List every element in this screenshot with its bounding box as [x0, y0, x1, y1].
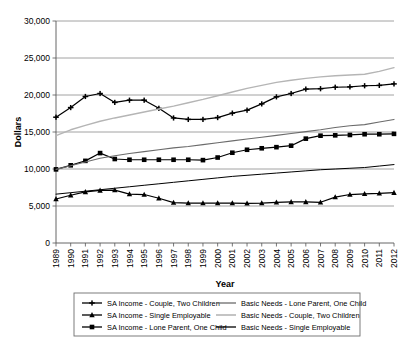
x-tick-label: 2001 — [227, 249, 237, 268]
marker-plus — [200, 117, 206, 122]
y-tick-label: 25,000 — [24, 53, 50, 63]
marker-square — [274, 145, 279, 150]
chart-container: 05,00010,00015,00020,00025,00030,000 198… — [0, 0, 402, 345]
x-tick-label: 2005 — [286, 249, 296, 268]
marker-square — [186, 157, 191, 162]
marker-plus-bar-v — [114, 100, 116, 105]
legend-label: Basic Needs - Lone Parent, One Child — [241, 299, 366, 308]
marker-plus-bar-v — [217, 115, 219, 120]
series-line — [56, 68, 394, 136]
marker-plus — [303, 86, 309, 91]
marker-plus — [185, 117, 191, 122]
series-line — [56, 84, 394, 120]
marker-square — [362, 132, 367, 137]
marker-square — [127, 157, 132, 162]
marker-plus-bar-v — [349, 84, 351, 89]
marker-plus-bar-v — [85, 94, 87, 99]
x-tick-label: 1992 — [95, 249, 105, 268]
x-tick-label: 2000 — [213, 249, 223, 268]
marker-plus-bar-v — [379, 83, 381, 88]
x-tick-label: 2003 — [257, 249, 267, 268]
marker-plus-bar-v — [320, 86, 322, 91]
x-axis-title: Year — [215, 279, 235, 289]
marker-square — [245, 147, 250, 152]
marker-plus-bar-v — [276, 94, 278, 99]
line-chart: 05,00010,00015,00020,00025,00030,000 198… — [0, 0, 402, 345]
series-line — [56, 119, 394, 169]
x-tick-label: 1991 — [80, 249, 90, 268]
marker-square — [304, 136, 309, 141]
marker-square — [98, 151, 103, 156]
marker-plus-bar-v — [202, 117, 204, 122]
marker-plus — [259, 101, 265, 106]
gridlines — [56, 21, 394, 206]
marker-plus-bar-v — [305, 86, 307, 91]
marker-plus-bar-v — [99, 91, 101, 96]
data-series — [53, 68, 397, 206]
marker-plus — [391, 81, 397, 86]
marker-plus — [141, 98, 147, 103]
x-tick-label: 1998 — [183, 249, 193, 268]
marker-square — [348, 133, 353, 138]
x-tick-label: 1999 — [198, 249, 208, 268]
marker-plus-bar-v — [246, 108, 248, 113]
marker-square — [333, 133, 338, 138]
marker-plus-bar-v — [334, 85, 336, 90]
marker-plus — [318, 86, 324, 91]
x-axis-tick-marks — [56, 243, 394, 247]
marker-plus-bar-v — [173, 115, 175, 120]
y-tick-label: 10,000 — [24, 164, 50, 174]
marker-plus-bar-v — [55, 115, 57, 120]
x-axis-tick-labels: 1989199019911992199319941995199619971998… — [51, 249, 399, 268]
y-axis-tick-labels: 05,00010,00015,00020,00025,00030,000 — [24, 16, 50, 248]
x-tick-label: 1996 — [154, 249, 164, 268]
marker-square — [201, 158, 206, 163]
y-tick-label: 5,000 — [29, 201, 51, 211]
marker-square — [142, 157, 147, 162]
series-3 — [56, 119, 394, 169]
marker-plus — [230, 111, 236, 116]
marker-square — [230, 150, 235, 155]
y-tick-label: 0 — [45, 238, 50, 248]
legend-label: Basic Needs - Couple, Two Children — [241, 311, 360, 320]
series-line — [56, 134, 394, 170]
marker-plus — [127, 98, 133, 103]
y-tick-label: 15,000 — [24, 127, 50, 137]
marker-square — [392, 132, 397, 137]
legend-label: SA Income - Lone Parent, One Child — [107, 323, 227, 332]
marker-plus — [377, 83, 383, 88]
marker-plus-bar-v — [129, 98, 131, 103]
marker-plus — [215, 115, 221, 120]
x-tick-label: 1997 — [169, 249, 179, 268]
x-tick-label: 1993 — [110, 249, 120, 268]
marker-plus — [244, 108, 250, 113]
marker-plus-bar-v — [143, 98, 145, 103]
x-tick-label: 2007 — [316, 249, 326, 268]
marker-square — [318, 133, 323, 138]
marker-plus-bar-v — [70, 105, 72, 110]
marker-plus — [362, 83, 368, 88]
series-2 — [54, 132, 397, 172]
x-tick-label: 2002 — [242, 249, 252, 268]
x-tick-label: 2006 — [301, 249, 311, 268]
marker-plus-bar-v — [188, 117, 190, 122]
legend-label: SA Income - Single Employable — [107, 311, 211, 320]
y-tick-label: 20,000 — [24, 90, 50, 100]
marker-square — [215, 155, 220, 160]
series-line — [56, 190, 394, 203]
marker-plus — [332, 85, 338, 90]
marker-plus-bar-v — [364, 83, 366, 88]
y-axis-title: Dollars — [13, 117, 23, 148]
x-tick-label: 2010 — [360, 249, 370, 268]
x-tick-label: 2008 — [330, 249, 340, 268]
x-tick-label: 2012 — [389, 249, 399, 268]
marker-plus — [347, 84, 353, 89]
series-1 — [53, 187, 396, 205]
marker-square — [171, 157, 176, 162]
marker-plus-bar-v — [393, 81, 395, 86]
marker-square — [157, 157, 162, 162]
marker-plus-bar-v — [232, 111, 234, 116]
x-tick-label: 1995 — [139, 249, 149, 268]
marker-square — [377, 132, 382, 137]
x-tick-label: 1990 — [66, 249, 76, 268]
